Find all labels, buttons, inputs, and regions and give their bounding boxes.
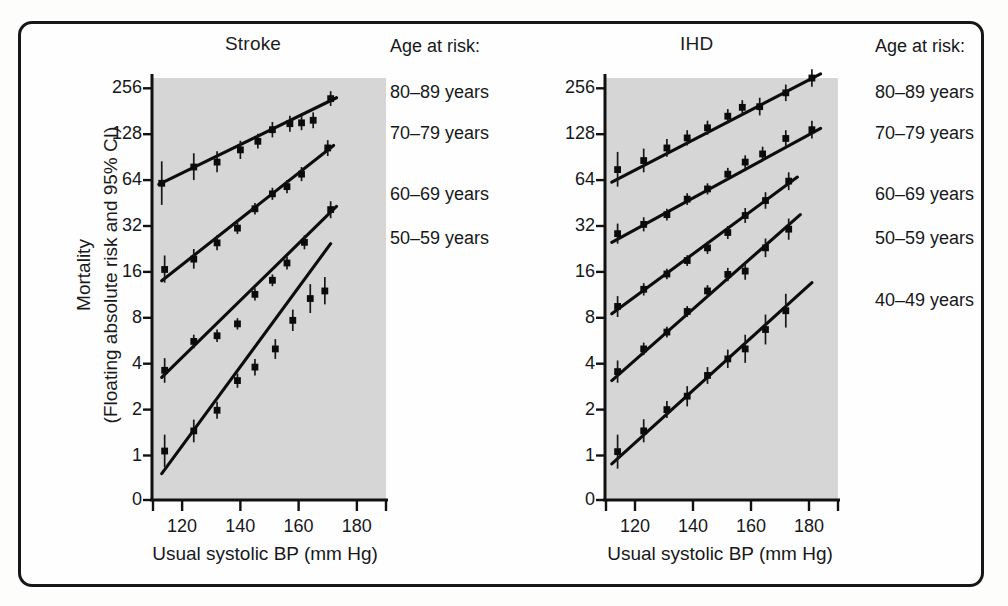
x-tick-label-stroke-140: 140 xyxy=(210,516,270,537)
data-point-ihd-2-7 xyxy=(762,197,769,204)
y-tick-label-ihd-16: 16 xyxy=(537,261,595,282)
data-point-ihd-4-6 xyxy=(742,346,749,353)
data-point-ihd-1-0 xyxy=(614,230,621,237)
data-point-ihd-1-9 xyxy=(809,126,816,133)
x-tick-label-ihd-120: 120 xyxy=(605,516,665,537)
y-tick-label-ihd-64: 64 xyxy=(537,169,595,190)
data-point-ihd-4-3 xyxy=(684,393,691,400)
data-point-ihd-1-2 xyxy=(664,211,671,218)
data-point-ihd-1-7 xyxy=(759,151,766,158)
legend-ihd-heading: Age at risk: xyxy=(875,36,965,57)
y-tick-label-stroke-8: 8 xyxy=(84,307,142,328)
data-point-ihd-2-8 xyxy=(785,178,792,185)
y-tick-label-ihd-256: 256 xyxy=(537,77,595,98)
y-tick-label-ihd-4: 4 xyxy=(537,353,595,374)
data-point-ihd-1-3 xyxy=(684,196,691,203)
data-point-ihd-4-0 xyxy=(614,448,621,455)
data-point-ihd-2-4 xyxy=(704,244,711,251)
y-tick-label-stroke-2: 2 xyxy=(84,399,142,420)
y-tick-label-ihd-1: 1 xyxy=(537,445,595,466)
y-tick-label-stroke-128: 128 xyxy=(84,123,142,144)
data-point-ihd-0-4 xyxy=(704,124,711,131)
legend-ihd-item-3: 50–59 years xyxy=(875,228,974,249)
data-point-ihd-3-1 xyxy=(640,346,647,353)
x-tick-label-ihd-180: 180 xyxy=(779,516,839,537)
data-point-ihd-0-0 xyxy=(614,166,621,173)
x-axis-title-ihd: Usual systolic BP (mm Hg) xyxy=(585,543,855,565)
data-point-ihd-4-7 xyxy=(762,326,769,333)
data-point-ihd-1-8 xyxy=(782,135,789,142)
data-point-ihd-0-1 xyxy=(640,157,647,164)
legend-ihd-item-1: 70–79 years xyxy=(875,123,974,144)
y-tick-label-stroke-zero: 0 xyxy=(84,489,142,510)
legend-stroke-heading: Age at risk: xyxy=(390,36,480,57)
data-point-ihd-2-5 xyxy=(724,229,731,236)
x-tick-label-stroke-120: 120 xyxy=(152,516,212,537)
data-point-ihd-3-5 xyxy=(724,271,731,278)
data-point-ihd-0-2 xyxy=(664,145,671,152)
x-tick-label-stroke-180: 180 xyxy=(327,516,387,537)
data-point-ihd-2-6 xyxy=(742,212,749,219)
data-point-ihd-3-0 xyxy=(614,368,621,375)
data-point-ihd-3-2 xyxy=(664,329,671,336)
data-point-ihd-4-8 xyxy=(782,307,789,314)
data-point-ihd-1-4 xyxy=(704,186,711,193)
data-point-ihd-2-2 xyxy=(664,271,671,278)
legend-stroke-item-0: 80–89 years xyxy=(390,82,489,103)
data-point-ihd-2-1 xyxy=(640,286,647,293)
y-tick-label-stroke-64: 64 xyxy=(84,169,142,190)
legend-stroke-item-1: 70–79 years xyxy=(390,123,489,144)
data-point-ihd-0-7 xyxy=(756,103,763,110)
y-tick-label-stroke-4: 4 xyxy=(84,353,142,374)
y-tick-label-ihd-128: 128 xyxy=(537,123,595,144)
data-point-ihd-2-3 xyxy=(684,257,691,264)
y-tick-label-stroke-1: 1 xyxy=(84,445,142,466)
legend-stroke-item-3: 50–59 years xyxy=(390,228,489,249)
data-point-ihd-2-0 xyxy=(614,303,621,310)
y-tick-label-stroke-256: 256 xyxy=(84,77,142,98)
data-point-ihd-3-7 xyxy=(762,244,769,251)
x-tick-label-ihd-160: 160 xyxy=(721,516,781,537)
legend-stroke-item-2: 60–69 years xyxy=(390,184,489,205)
y-tick-label-ihd-2: 2 xyxy=(537,399,595,420)
data-point-ihd-1-6 xyxy=(742,159,749,166)
data-point-ihd-4-2 xyxy=(664,406,671,413)
data-point-ihd-0-8 xyxy=(782,89,789,96)
y-tick-label-ihd-32: 32 xyxy=(537,215,595,236)
data-point-ihd-3-6 xyxy=(742,268,749,275)
data-point-ihd-0-9 xyxy=(809,75,816,82)
data-point-ihd-1-5 xyxy=(724,171,731,178)
y-tick-label-ihd-zero: 0 xyxy=(537,489,595,510)
figure-root: Mortality (Floating absolute risk and 95… xyxy=(0,0,1008,606)
data-point-ihd-0-3 xyxy=(684,135,691,142)
data-point-ihd-1-1 xyxy=(640,221,647,228)
legend-ihd-item-2: 60–69 years xyxy=(875,184,974,205)
x-tick-label-stroke-160: 160 xyxy=(269,516,329,537)
data-point-ihd-4-1 xyxy=(640,427,647,434)
data-point-ihd-3-8 xyxy=(785,226,792,233)
y-tick-label-ihd-8: 8 xyxy=(537,307,595,328)
legend-ihd-item-0: 80–89 years xyxy=(875,82,974,103)
data-point-ihd-4-4 xyxy=(704,372,711,379)
data-point-ihd-0-5 xyxy=(724,113,731,120)
y-tick-label-stroke-16: 16 xyxy=(84,261,142,282)
data-point-ihd-4-5 xyxy=(724,356,731,363)
data-point-ihd-3-4 xyxy=(704,288,711,295)
data-point-ihd-0-6 xyxy=(739,104,746,111)
y-tick-label-stroke-32: 32 xyxy=(84,215,142,236)
data-point-ihd-3-3 xyxy=(684,308,691,315)
x-tick-label-ihd-140: 140 xyxy=(663,516,723,537)
legend-ihd-item-4: 40–49 years xyxy=(875,290,974,311)
